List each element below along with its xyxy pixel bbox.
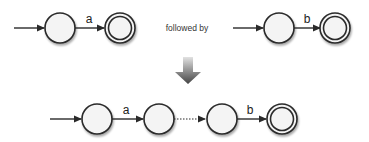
transition-label-a: a [86, 12, 93, 26]
automaton-b: b [233, 12, 350, 43]
state-p0 [264, 13, 294, 43]
automaton-a: a [14, 12, 135, 43]
transition-label-a: a [123, 103, 130, 117]
state-q0 [45, 13, 75, 43]
transition-label-b: b [247, 103, 254, 117]
state-r1 [144, 104, 174, 134]
state-r2 [207, 104, 237, 134]
down-arrow-icon [175, 57, 201, 84]
automata-concatenation-diagram: a followed by b a b [0, 0, 369, 142]
state-r3-accepting [267, 104, 297, 134]
followed-by-text: followed by [166, 23, 209, 33]
automaton-concatenated: a b [50, 103, 297, 134]
state-q1-accepting [105, 13, 135, 43]
state-r0 [82, 104, 112, 134]
state-p1-accepting [320, 13, 350, 43]
transition-label-b: b [304, 12, 311, 26]
